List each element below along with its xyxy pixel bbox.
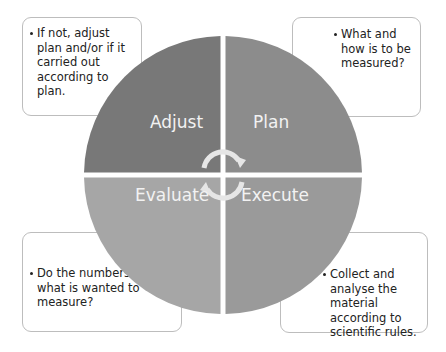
quadrant-label-evaluate: Evaluate — [135, 185, 209, 205]
quadrant-label-execute: Execute — [241, 185, 309, 205]
cycle-diagram — [0, 0, 446, 352]
quadrant-label-plan: Plan — [253, 112, 289, 132]
quadrant-plan — [226, 36, 363, 173]
quadrant-adjust — [84, 36, 221, 173]
quadrant-label-adjust: Adjust — [150, 112, 203, 132]
